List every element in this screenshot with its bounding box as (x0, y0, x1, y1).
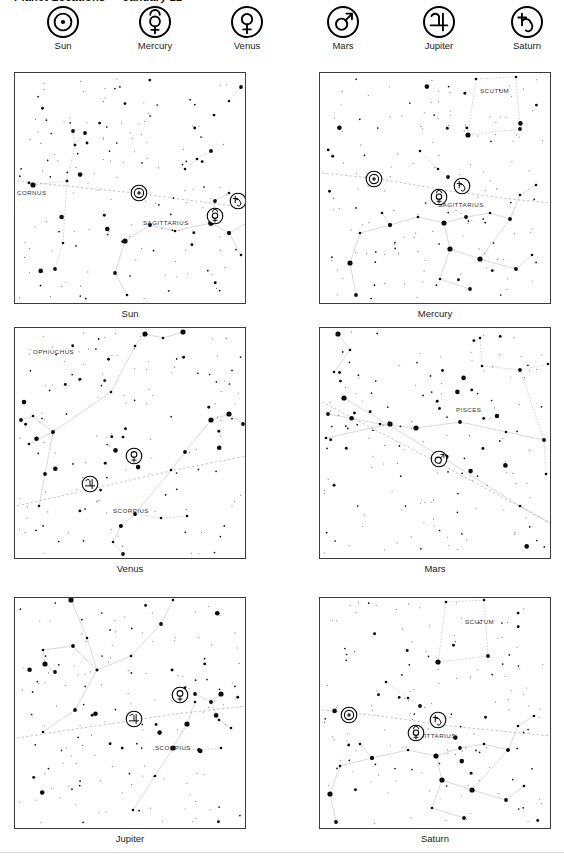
star-chart-mercury[interactable]: SCUTUMSAGITTARIUS (319, 72, 551, 304)
jupiter-symbol-icon (423, 6, 455, 38)
legend-item-venus: Venus (200, 6, 294, 51)
saturn-symbol-icon (511, 6, 543, 38)
svg-text:SCORPIUS: SCORPIUS (155, 744, 191, 751)
legend-item-label: Mercury (108, 40, 202, 51)
star-chart-saturn[interactable]: SCUTUMSAGITTARIUS (319, 597, 551, 829)
page-title: Planet Locations — January 22 (14, 0, 182, 3)
star-chart-mars[interactable]: PISCES (319, 327, 551, 559)
legend-item-jupiter: Jupiter (392, 6, 486, 51)
legend-item-mars: Mars (296, 6, 390, 51)
svg-text:SCUTUM: SCUTUM (480, 87, 509, 94)
chart-caption-venus: Venus (14, 563, 246, 574)
legend-item-label: Saturn (480, 40, 564, 51)
svg-text:SCORPIUS: SCORPIUS (113, 507, 149, 514)
svg-text:OPHIUCHUS: OPHIUCHUS (33, 348, 74, 355)
chart-caption-saturn: Saturn (319, 833, 551, 844)
chart-caption-mercury: Mercury (319, 308, 551, 319)
legend-item-mercury: Mercury (108, 6, 202, 51)
svg-text:SAGITTARIUS: SAGITTARIUS (143, 219, 189, 226)
legend-item-label: Mars (296, 40, 390, 51)
star-chart-venus[interactable]: OPHIUCHUSSCORPIUS (14, 327, 246, 559)
mars-symbol-icon (327, 6, 359, 38)
svg-text:CORNUS: CORNUS (17, 189, 47, 196)
svg-text:SCUTUM: SCUTUM (465, 618, 494, 625)
chart-caption-mars: Mars (319, 563, 551, 574)
sun-symbol-icon (47, 6, 79, 38)
legend-item-label: Jupiter (392, 40, 486, 51)
mercury-symbol-icon (139, 6, 171, 38)
chart-caption-sun: Sun (14, 308, 246, 319)
star-chart-sun[interactable]: CORNUSSAGITTARIUS (14, 72, 246, 304)
planet-symbol-legend: SunMercuryVenusMarsJupiterSaturn (0, 6, 564, 58)
legend-item-sun: Sun (16, 6, 110, 51)
legend-item-label: Sun (16, 40, 110, 51)
legend-item-label: Venus (200, 40, 294, 51)
legend-item-saturn: Saturn (480, 6, 564, 51)
footer-divider (0, 852, 564, 853)
chart-caption-jupiter: Jupiter (14, 833, 246, 844)
star-chart-jupiter[interactable]: SCORPIUS (14, 597, 246, 829)
venus-symbol-icon (231, 6, 263, 38)
svg-text:PISCES: PISCES (456, 406, 481, 413)
